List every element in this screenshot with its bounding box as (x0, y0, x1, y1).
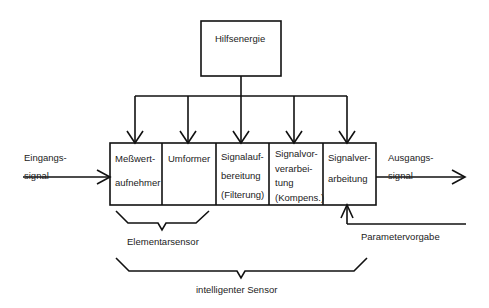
block-messwertaufnehmer: Meßwert- aufnehmer (115, 147, 160, 195)
block-signalvorverarbeitung: Signalvor- verarbei- tung (Kompens.) (275, 147, 324, 205)
block-line: arbeitung (328, 168, 371, 189)
group-label-intelligenter-sensor: intelligenter Sensor (196, 284, 277, 295)
block-umformer: Umformer (168, 147, 210, 171)
block-line: (Filterung) (221, 185, 264, 204)
parameter-arrow (341, 205, 466, 224)
output-label-line2: signal (388, 167, 433, 185)
block-line: bereitung (221, 166, 264, 185)
supply-box (201, 21, 281, 76)
brace-elementarsensor (116, 211, 209, 230)
block-line: (Kompens.) (275, 191, 324, 206)
block-signalaufbereitung: Signalauf- bereitung (Filterung) (221, 147, 264, 204)
block-signalverarbeitung: Signalver- arbeitung (328, 147, 371, 189)
block-line: Signalvor- (275, 147, 324, 162)
brace-intelligenter-sensor (116, 258, 367, 278)
output-label: Ausgangs- signal (388, 149, 433, 185)
block-line: Signalver- (328, 147, 371, 168)
input-label-line1: Eingangs- (24, 149, 67, 167)
block-line: Umformer (168, 147, 210, 171)
group-label-elementarsensor: Elementarsensor (127, 236, 199, 247)
parameter-label: Parametervorgabe (361, 231, 440, 242)
output-label-line1: Ausgangs- (388, 149, 433, 167)
supply-arrows (127, 96, 355, 143)
supply-label: Hilfsenergie (215, 33, 265, 44)
block-line: Meßwert- (115, 147, 160, 171)
block-line: verarbei- (275, 162, 324, 177)
block-line: aufnehmer (115, 171, 160, 195)
block-line: tung (275, 176, 324, 191)
input-label-line2: signal (24, 167, 67, 185)
block-line: Signalauf- (221, 147, 264, 166)
input-label: Eingangs- signal (24, 149, 67, 185)
